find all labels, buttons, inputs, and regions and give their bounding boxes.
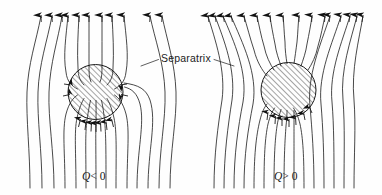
field-line [49, 16, 62, 188]
field-line [150, 16, 165, 188]
field-line [244, 16, 267, 76]
inflow-arrow [267, 112, 268, 120]
flow-arrow [329, 15, 330, 22]
inflow-arrow [296, 117, 297, 125]
field-line [321, 16, 341, 188]
field-line [270, 16, 281, 66]
field-line [264, 108, 275, 188]
field-line [208, 16, 223, 188]
flow-arrow [208, 15, 209, 22]
field-line [38, 16, 52, 188]
inflow-arrow [85, 122, 86, 131]
inflow-arrow [304, 113, 306, 121]
field-line [332, 16, 350, 188]
field-line [215, 16, 233, 188]
left-charged-sphere [68, 65, 123, 120]
field-line-figure: Separatrix Q< 0 Q> 0 [0, 0, 382, 195]
field-line [342, 16, 357, 188]
inflow-arrow [106, 122, 107, 131]
field-line-canvas [0, 0, 382, 195]
flow-arrow [356, 15, 357, 22]
field-line [301, 16, 312, 66]
right-panel-charge-label: Q> 0 [274, 170, 297, 183]
flow-arrow [349, 15, 350, 22]
panel-left-top-arrows [41, 15, 162, 22]
flow-arrow [215, 15, 216, 22]
inflow-arrow [79, 119, 81, 127]
separatrix-label: Separatrix [161, 52, 211, 64]
flow-arrow [244, 15, 245, 22]
flow-arrow [257, 15, 258, 22]
flow-arrow [362, 15, 363, 22]
flow-arrow [325, 15, 326, 22]
left-charge-relation: < 0 [90, 170, 105, 182]
flow-arrow [340, 15, 341, 22]
field-line [283, 16, 287, 64]
inflow-arrow [91, 123, 92, 132]
right-charged-sphere [261, 63, 316, 118]
left-panel-charge-label: Q< 0 [82, 170, 105, 183]
inflow-arrow [275, 116, 276, 124]
inflow-arrow [101, 123, 102, 132]
field-line [223, 16, 244, 188]
field-line [27, 16, 41, 188]
right-charge-relation: > 0 [282, 170, 297, 182]
flow-arrow [270, 15, 271, 22]
field-line [353, 16, 363, 188]
field-line [231, 16, 254, 188]
separatrix-leader-right [214, 60, 234, 67]
field-line [294, 16, 299, 64]
field-line [162, 16, 176, 188]
inflow-arrow [112, 119, 114, 127]
separatrix-leader-left [141, 60, 159, 67]
